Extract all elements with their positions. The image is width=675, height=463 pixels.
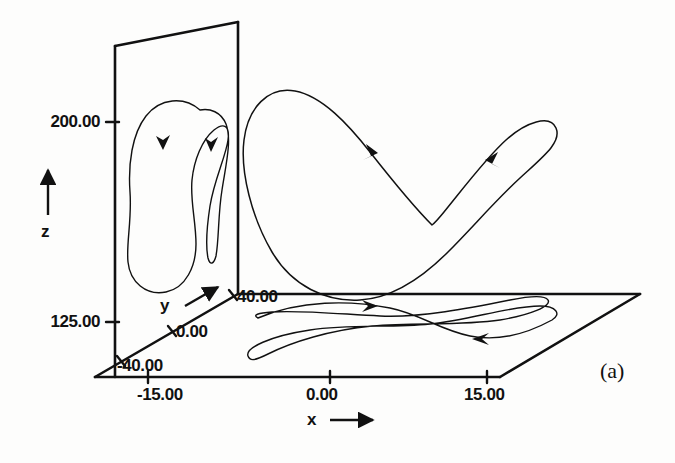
z-tick-label-200: 200.00 <box>0 112 100 132</box>
y-tick-label-0: 0.00 <box>176 322 208 342</box>
x-axis-title: x <box>307 410 316 430</box>
projection-xy-curve <box>248 297 557 360</box>
trajectory-3d-path <box>243 90 557 300</box>
trajectory-3d-curve <box>243 90 557 300</box>
figure-container: 200.00 125.00 z -40.00 0.00 40.00 y -15.… <box>0 0 675 463</box>
projection-zy-arrow-right <box>205 137 218 152</box>
trajectory-3d-direction-markers <box>363 144 500 168</box>
x-tick-label-neg15: -15.00 <box>137 385 183 405</box>
x-tick-label-15: 15.00 <box>464 385 505 405</box>
x-tick-label-0: 0.00 <box>306 385 338 405</box>
y-axis-title: y <box>160 296 169 316</box>
z-axis-ticks <box>106 122 119 322</box>
projection-zy-curve <box>128 101 229 293</box>
projection-xy-arrow-left <box>472 333 489 345</box>
z-axis-title: z <box>41 222 50 242</box>
z-tick-label-125: 125.00 <box>0 312 100 332</box>
phase-space-plot <box>0 0 675 463</box>
projection-zy-path <box>128 101 229 293</box>
panel-caption: (a) <box>600 358 624 384</box>
y-tick-label-40: 40.00 <box>237 287 278 307</box>
projection-xy-arrow-right <box>362 300 378 312</box>
y-axis-arrow <box>185 287 218 306</box>
projection-zy-arrow-left <box>156 135 170 150</box>
y-tick-label-neg40: -40.00 <box>117 356 163 376</box>
back-wall-top-edge <box>115 22 238 46</box>
projection-zy-direction-markers <box>156 135 218 152</box>
projection-xy-path <box>248 297 557 360</box>
